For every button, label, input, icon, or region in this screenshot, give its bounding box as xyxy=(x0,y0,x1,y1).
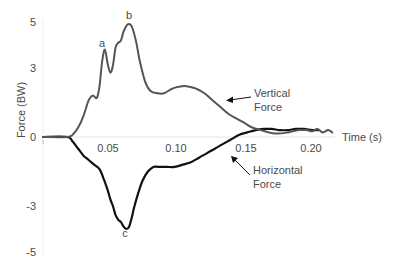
x-axis-title: Time (s) xyxy=(342,131,382,143)
vertical-force-arrow-head xyxy=(226,97,233,104)
x-tick-005: 0.05 xyxy=(97,142,118,154)
vertical-force-arrow-line xyxy=(230,97,251,100)
y-tick-3: 3 xyxy=(30,62,36,74)
y-tick-5: 5 xyxy=(30,16,36,28)
vertical-force-label-line1: Vertical xyxy=(254,87,290,99)
x-tick-015: 0.15 xyxy=(235,142,256,154)
y-tick-neg5: -5 xyxy=(26,246,36,258)
vertical-force-label-line2: Force xyxy=(254,101,282,113)
peak-label-a: a xyxy=(99,37,106,49)
peak-label-b: b xyxy=(126,9,132,21)
x-tick-010: 0.10 xyxy=(165,142,186,154)
x-tick-020: 0.20 xyxy=(300,142,321,154)
peak-label-c: c xyxy=(122,227,128,239)
horizontal-force-label-line2: Force xyxy=(253,178,281,190)
vertical-force-line xyxy=(43,24,332,137)
y-tick-0: 0 xyxy=(30,131,36,143)
y-axis-title: Force (BW) xyxy=(15,82,27,138)
force-time-chart: 5 3 0 -3 -5 0.05 0.10 0.15 0.20 Force (B… xyxy=(0,0,402,270)
horizontal-force-label-line1: Horizontal xyxy=(253,164,303,176)
y-tick-neg3: -3 xyxy=(26,200,36,212)
horizontal-force-arrow-line xyxy=(234,159,250,175)
